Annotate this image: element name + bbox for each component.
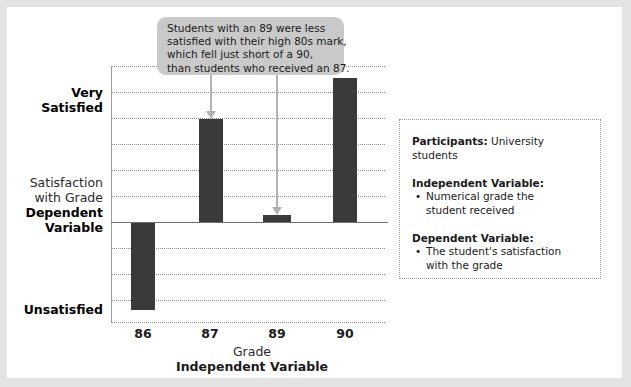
x-tick-86: 86: [113, 326, 173, 341]
x-tick-89: 89: [247, 326, 307, 341]
participants-row: Participants: University students: [412, 134, 588, 162]
y-axis-title-dependent-variable: Dependent Variable: [7, 206, 103, 235]
y-axis-line: [111, 66, 112, 322]
y-label-very-satisfied: Very Satisfied: [7, 86, 103, 115]
slide-page: Very Satisfied Satisfaction with Grade D…: [0, 0, 631, 387]
participants-label: Participants:: [412, 135, 488, 147]
arrow-shaft: [210, 75, 212, 111]
y-axis-title-line2: with Grade: [34, 190, 103, 205]
study-info-box: Participants: University students Indepe…: [399, 119, 601, 279]
bar-86: [131, 222, 155, 310]
spacer: [412, 162, 588, 176]
y-axis-title-satisfaction: Satisfaction with Grade: [7, 176, 103, 205]
callout-line-4: than students who received an 87.: [167, 62, 335, 75]
x-tick-87: 87: [180, 326, 240, 341]
callout-line-1: Students with an 89 were less: [167, 22, 335, 35]
gridline: [111, 322, 385, 323]
chart-canvas: Very Satisfied Satisfaction with Grade D…: [7, 7, 631, 387]
callout-line-2: satisfied with their high 80s mark,: [167, 35, 335, 48]
callout-line-3: which fell just short of a 90,: [167, 48, 335, 61]
dependent-variable-bullet: The student's satisfaction with the grad…: [412, 245, 588, 272]
bar-87: [199, 119, 223, 222]
arrow-head-icon: [272, 207, 282, 215]
dependent-variable-heading: Dependent Variable:: [412, 231, 588, 245]
independent-variable-heading: Independent Variable:: [412, 176, 588, 190]
bar-90: [333, 78, 357, 222]
dependent-bullet-line2: with the grade: [426, 259, 588, 273]
y-label-very-satisfied-line2: Satisfied: [41, 100, 103, 115]
zero-baseline: [111, 222, 388, 223]
plot-area: [111, 66, 385, 322]
y-axis-title-line3: Dependent: [26, 205, 103, 220]
arrow-shaft: [276, 75, 278, 207]
x-tick-90: 90: [315, 326, 375, 341]
independent-bullet-line1: Numerical grade the: [426, 190, 534, 202]
independent-variable-bullet: Numerical grade the student received: [412, 190, 588, 217]
y-label-very-satisfied-line1: Very: [71, 85, 103, 100]
y-axis-title-line1: Satisfaction: [30, 175, 103, 190]
callout-annotation: Students with an 89 were less satisfied …: [157, 17, 344, 75]
x-axis-title-independent-variable: Independent Variable: [172, 359, 332, 374]
x-axis-title-grade: Grade: [202, 344, 302, 359]
spacer: [412, 217, 588, 231]
independent-bullet-line2: student received: [426, 204, 588, 218]
y-axis-title-line4: Variable: [45, 220, 103, 235]
arrow-head-icon: [206, 111, 216, 119]
dependent-bullet-line1: The student's satisfaction: [426, 245, 561, 257]
y-label-unsatisfied: Unsatisfied: [7, 303, 103, 318]
bar-89: [263, 215, 291, 222]
